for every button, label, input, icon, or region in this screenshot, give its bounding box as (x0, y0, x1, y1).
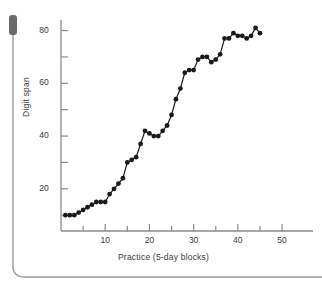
data-point (103, 200, 108, 205)
x-axis-ticks (83, 224, 282, 231)
data-point (187, 68, 192, 73)
data-point (129, 157, 134, 162)
data-point (138, 142, 143, 147)
y-axis-ticks (61, 31, 68, 216)
data-point (76, 210, 81, 215)
data-point (218, 52, 223, 57)
data-point (249, 33, 254, 38)
data-point (258, 31, 263, 36)
chart-axes (61, 20, 313, 231)
x-tick-label: 40 (227, 235, 249, 245)
x-tick-label: 30 (183, 235, 205, 245)
data-point (169, 113, 174, 118)
data-point (178, 86, 183, 91)
data-point (116, 181, 121, 186)
data-point (240, 33, 245, 38)
data-point (85, 205, 90, 210)
data-point (196, 57, 201, 62)
data-point (204, 55, 209, 60)
data-point (120, 176, 125, 181)
x-axis-label: Practice (5-day blocks) (118, 252, 209, 262)
data-series-markers (63, 26, 262, 218)
x-tick-label: 20 (138, 235, 160, 245)
data-point (72, 213, 77, 218)
data-point (90, 202, 95, 207)
y-tick-label: 20 (33, 183, 55, 193)
data-point (98, 200, 103, 205)
data-point (156, 134, 161, 139)
data-point (231, 31, 236, 36)
data-point (143, 128, 148, 133)
data-point (63, 213, 68, 218)
y-tick-label: 80 (33, 25, 55, 35)
data-point (112, 186, 117, 191)
data-point (125, 160, 130, 165)
y-tick-label: 40 (33, 130, 55, 140)
data-point (235, 33, 240, 38)
y-tick-label: 60 (33, 77, 55, 87)
data-point (160, 128, 165, 133)
data-point (182, 70, 187, 75)
data-point (253, 26, 258, 31)
y-axis-label: Digit span (21, 67, 31, 127)
data-point (213, 57, 218, 62)
data-point (191, 68, 196, 73)
data-point (147, 131, 152, 136)
data-point (222, 36, 227, 41)
data-point (227, 36, 232, 41)
data-point (174, 97, 179, 102)
data-point (165, 123, 170, 128)
data-point (200, 55, 205, 60)
data-point (244, 36, 249, 41)
data-series-line (65, 28, 260, 215)
figure-canvas: 20406080 1020304050 Digit span Practice … (0, 0, 322, 285)
data-point (94, 200, 99, 205)
x-tick-label: 10 (94, 235, 116, 245)
data-point (134, 155, 139, 160)
data-point (81, 208, 86, 213)
data-point (151, 134, 156, 139)
x-tick-label: 50 (271, 235, 293, 245)
data-point (209, 60, 214, 65)
data-point (67, 213, 72, 218)
data-point (107, 192, 112, 197)
